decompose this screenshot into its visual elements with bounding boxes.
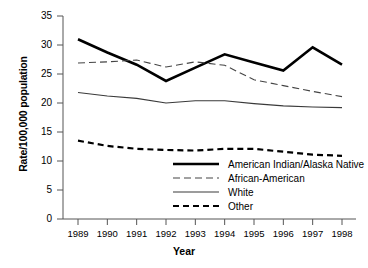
thin-solid-sample xyxy=(172,186,220,198)
thick-solid-sample xyxy=(172,158,220,170)
y-axis-tick-label: 35 xyxy=(26,11,52,21)
series-line xyxy=(78,39,342,81)
y-axis-tick-label: 25 xyxy=(26,69,52,79)
legend-item-label: Other xyxy=(228,201,253,212)
series-line xyxy=(78,93,342,108)
legend-item-label: African-American xyxy=(228,173,305,184)
y-axis-tick-label: 20 xyxy=(26,98,52,108)
y-axis-tick-label: 30 xyxy=(26,40,52,50)
series-line xyxy=(78,141,342,156)
legend-item: White xyxy=(172,185,364,199)
legend-item: African-American xyxy=(172,171,364,185)
series-line xyxy=(78,60,342,97)
y-axis-tick-label: 5 xyxy=(26,185,52,195)
bold-dash-sample xyxy=(172,200,220,212)
legend-item-label: American Indian/Alaska Native xyxy=(228,159,364,170)
y-axis-title: Rate/100,000 population xyxy=(17,29,29,199)
chart-legend: American Indian/Alaska NativeAfrican-Ame… xyxy=(172,157,364,213)
line-chart: 05101520253035 1989199019911992199319941… xyxy=(0,0,368,268)
x-axis-title: Year xyxy=(0,245,368,257)
x-axis-ticks xyxy=(78,219,342,225)
y-axis-tick-label: 10 xyxy=(26,156,52,166)
y-axis-tick-label: 15 xyxy=(26,127,52,137)
x-axis-tick-label: 1998 xyxy=(322,229,362,239)
legend-item: Other xyxy=(172,199,364,213)
legend-item-label: White xyxy=(228,187,254,198)
y-axis-ticks xyxy=(57,16,63,219)
y-axis-tick-label: 0 xyxy=(26,214,52,224)
long-dash-sample xyxy=(172,172,220,184)
series-lines xyxy=(78,39,342,156)
legend-item: American Indian/Alaska Native xyxy=(172,157,364,171)
